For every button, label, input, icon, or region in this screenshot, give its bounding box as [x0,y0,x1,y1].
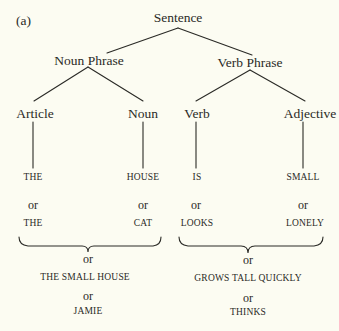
noun-phrase-alt-1: THE SMALL HOUSE [40,273,130,283]
node-adjective: Adjective [284,107,336,121]
alt-article: THE [23,219,42,229]
edge-sentence-verb-phrase [178,28,252,55]
node-verb-phrase: Verb Phrase [218,56,283,70]
verb-phrase-brace [179,237,323,253]
node-article: Article [16,107,53,121]
or-noun-phrase: or [83,253,93,265]
edge-noun-phrase-article [34,67,88,101]
or-article: or [28,199,38,211]
or-noun-phrase-2: or [83,290,93,302]
edge-verb-phrase-verb [196,70,250,101]
edge-noun-phrase-noun [88,67,143,101]
noun-phrase-brace [19,237,161,252]
node-sentence: Sentence [154,11,203,25]
alt-noun: CAT [134,219,153,229]
alt-verb: LOOKS [181,219,214,229]
or-verb: or [191,199,201,211]
node-verb: Verb [184,107,210,121]
edge-sentence-noun-phrase [107,28,178,53]
or-adjective: or [298,199,308,211]
noun-phrase-alt-2: JAMIE [74,307,103,317]
word-noun: HOUSE [127,173,160,183]
word-verb: IS [193,173,202,183]
node-noun-phrase: Noun Phrase [54,54,123,68]
verb-phrase-alt-1: GROWS TALL QUICKLY [194,274,301,284]
verb-phrase-alt-2: THINKS [230,308,266,318]
or-verb-phrase: or [243,254,253,266]
word-article: THE [23,173,42,183]
alt-adjective: LONELY [286,219,324,229]
word-adjective: SMALL [286,173,319,183]
node-noun: Noun [128,107,158,121]
or-noun: or [138,199,148,211]
figure-label: (a) [16,14,31,28]
or-verb-phrase-2: or [243,292,253,304]
edge-verb-phrase-adjective [250,70,305,101]
